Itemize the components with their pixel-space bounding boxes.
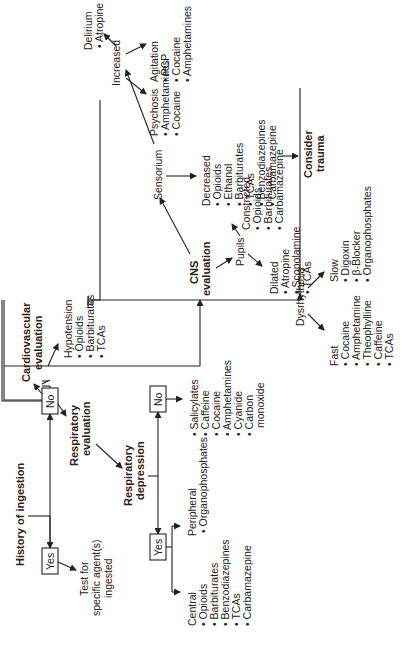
root-title: History of ingestion xyxy=(14,462,26,566)
yes-box: Yes xyxy=(42,548,58,574)
svg-text:• Organophosphates: • Organophosphates xyxy=(361,186,373,282)
svg-text:• Organophosphates: • Organophosphates xyxy=(197,437,209,533)
no-box: No xyxy=(42,388,58,414)
svg-text:• TCAs: • TCAs xyxy=(301,261,313,294)
svg-text:No: No xyxy=(152,392,164,406)
svg-text:Yes: Yes xyxy=(152,539,164,556)
toxicology-flowchart: History of ingestion Yes Test for specif… xyxy=(0,0,412,666)
svg-text:• Carbamazepine: • Carbamazepine xyxy=(241,545,253,626)
respiratory-no-list: • Salicylates • Caffeine • Cocaine • Amp… xyxy=(188,360,266,436)
delirium-list: Delirium • Atropine xyxy=(82,3,105,50)
cardiovascular-evaluation-title: Cardiovascular evaluation xyxy=(20,299,44,382)
cns-evaluation-title: CNS evaluation xyxy=(188,241,212,296)
svg-text:• Atropine: • Atropine xyxy=(93,3,105,48)
increased-label: Increased xyxy=(110,40,122,86)
svg-text:• TCAs: • TCAs xyxy=(383,333,395,366)
dilated-list: Dilated • Atropine • Scopolamine • TCAs xyxy=(268,227,313,294)
test-for-agents-text: Test for specific agent(s) ingested xyxy=(78,537,114,616)
svg-text:• Amphetamines: • Amphetamines xyxy=(181,6,193,82)
respiratory-depression-title: Respiratory depression xyxy=(122,441,146,506)
slow-list: Slow • Digoxin • β-Blocker • Organophosp… xyxy=(328,186,373,282)
respiratory-evaluation-title: Respiratory evaluation xyxy=(68,401,92,466)
respiratory-no-box: No xyxy=(150,386,166,412)
svg-text:No: No xyxy=(44,394,56,408)
fast-list: Fast • Cocaine • Amphetamine • Theophyll… xyxy=(328,295,395,366)
svg-text:• Carbamazepine: • Carbamazepine xyxy=(266,125,278,206)
svg-text:monoxide: monoxide xyxy=(254,382,266,428)
decreased-list: Decreased • Opioids • Ethanol • Barbitur… xyxy=(200,119,278,206)
consider-trauma-text: Consider trauma xyxy=(302,127,326,178)
central-list: Central • Opioids • Barbiturates • Benzo… xyxy=(186,539,253,626)
svg-text:Yes: Yes xyxy=(44,553,56,570)
agitation-list: Agitation • PCP • Cocaine • Amphetamines xyxy=(148,6,193,82)
peripheral-list: Peripheral • Organophosphates xyxy=(186,437,209,536)
hypotension-list: Hypotension • Opioids • Barbiturates • T… xyxy=(62,295,107,358)
svg-text:• TCAs: • TCAs xyxy=(95,325,107,358)
svg-text:• Cocaine: • Cocaine xyxy=(170,91,182,136)
sensorium-label: Sensorium xyxy=(152,150,164,200)
pupils-label: Pupils xyxy=(234,237,246,266)
respiratory-yes-box: Yes xyxy=(150,534,166,560)
